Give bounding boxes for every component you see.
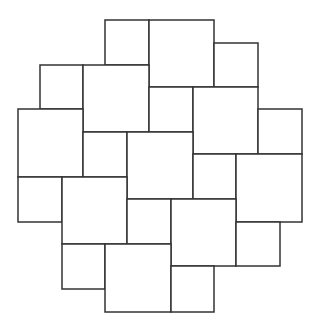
large-square-tile bbox=[149, 20, 214, 87]
large-square-tile bbox=[18, 109, 83, 177]
small-square-tile bbox=[62, 244, 105, 289]
large-square-tile bbox=[83, 65, 149, 132]
tiling-diagram bbox=[0, 0, 320, 325]
large-square-tile bbox=[236, 154, 302, 222]
small-square-tile bbox=[193, 154, 236, 199]
small-square-tile bbox=[105, 20, 149, 65]
large-square-tile bbox=[171, 199, 236, 266]
small-square-tile bbox=[258, 109, 302, 154]
small-square-tile bbox=[18, 177, 62, 222]
small-square-tile bbox=[214, 43, 258, 87]
large-square-tile bbox=[105, 244, 171, 312]
small-square-tile bbox=[127, 199, 171, 244]
small-square-tile bbox=[149, 87, 193, 132]
small-square-tile bbox=[236, 222, 280, 266]
small-square-tile bbox=[171, 266, 214, 312]
large-square-tile bbox=[127, 132, 193, 199]
large-square-tile bbox=[62, 177, 127, 244]
tile-group bbox=[18, 20, 302, 312]
small-square-tile bbox=[40, 65, 83, 109]
large-square-tile bbox=[193, 87, 258, 154]
small-square-tile bbox=[83, 132, 127, 177]
